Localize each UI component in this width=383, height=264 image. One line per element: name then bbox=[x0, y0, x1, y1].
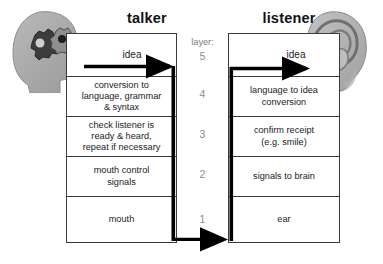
listener-idea-label: idea bbox=[258, 49, 334, 60]
signal-flow-path bbox=[0, 0, 383, 264]
communication-layers-diagram: talker listener conversion to language, … bbox=[0, 0, 383, 264]
talker-idea-label: idea bbox=[92, 49, 172, 60]
